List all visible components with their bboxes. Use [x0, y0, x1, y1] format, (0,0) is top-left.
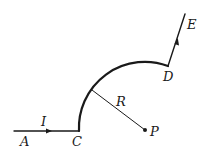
label-d: D: [162, 69, 174, 84]
label-e: E: [186, 17, 197, 32]
label-i: I: [40, 114, 47, 129]
wire-diagram: A I C R P D E: [0, 0, 206, 152]
segment-d-e: [168, 14, 185, 66]
point-p-dot: [143, 128, 147, 132]
label-c: C: [72, 134, 82, 149]
current-arrow-icon: [46, 129, 52, 134]
label-r: R: [115, 94, 126, 109]
label-p: P: [149, 124, 159, 139]
label-a: A: [19, 134, 29, 149]
